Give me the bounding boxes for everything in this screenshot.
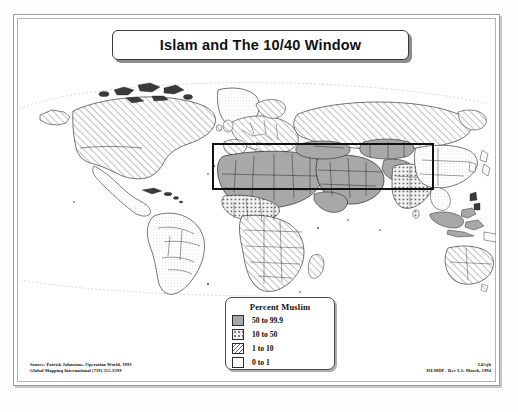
legend-label: 1 to 10 bbox=[252, 344, 274, 353]
page-title: Islam and The 10/40 Window bbox=[160, 37, 362, 53]
legend-item-10-to-50: 10 to 50 bbox=[232, 328, 277, 341]
region-sub-saharan-africa bbox=[222, 195, 324, 291]
legend-swatch-dotted bbox=[232, 329, 244, 340]
region-east-asia bbox=[415, 145, 491, 210]
legend-item-1-to-10: 1 to 10 bbox=[232, 342, 274, 355]
legend-swatch-hatched bbox=[232, 343, 244, 354]
map-page: Islam and The 10/40 Window Percent Musli… bbox=[0, 0, 518, 412]
legend-label: 50 to 99.9 bbox=[252, 316, 283, 325]
legend-item-0-to-1: 0 to 1 bbox=[232, 356, 270, 369]
region-australia bbox=[445, 246, 493, 292]
revision-info: ISLMDP - Rev 3.1: March, 1994 bbox=[426, 368, 491, 374]
region-south-america bbox=[147, 213, 204, 294]
legend-item-50-to-99-9: 50 to 99.9 bbox=[232, 314, 283, 327]
legend-swatch-solid-gray bbox=[232, 315, 244, 326]
legend-swatch-blank bbox=[232, 357, 244, 368]
world-map bbox=[18, 70, 496, 302]
map-title-plate: Islam and The 10/40 Window bbox=[112, 30, 409, 60]
source-credits: Source: Patrick Johnstone, Operation Wor… bbox=[30, 362, 132, 374]
source-line-2: Global Mapping International (719) 555-3… bbox=[30, 368, 132, 374]
legend-title: Percent Muslim bbox=[226, 302, 334, 312]
publication-credits: Lil/sjh ISLMDP - Rev 3.1: March, 1994 bbox=[426, 362, 491, 374]
legend-label: 0 to 1 bbox=[252, 358, 270, 367]
legend-label: 10 to 50 bbox=[252, 330, 277, 339]
legend: Percent Muslim 50 to 99.9 10 to 50 1 to … bbox=[225, 297, 335, 370]
